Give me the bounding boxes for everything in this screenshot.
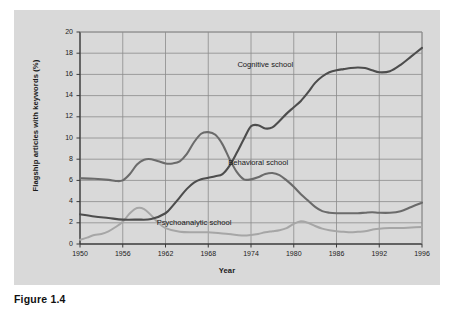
x-tick-label: 1996: [405, 250, 439, 257]
x-tick-label: 1974: [234, 250, 268, 257]
figure-container: Flagship articles with keywords (%) Year…: [0, 0, 451, 316]
y-tick-label: 14: [55, 91, 73, 98]
y-tick-label: 20: [55, 28, 73, 35]
x-tick-label: 1992: [362, 250, 396, 257]
series-label-psychoanalytic-school: Psychoanalytic school: [157, 218, 232, 227]
series-label-behavioral-school: Behavioral school: [228, 158, 288, 167]
x-tick-label: 1986: [320, 250, 354, 257]
series-label-cognitive-school: Cognitive school: [237, 60, 293, 69]
x-tick-label: 1980: [277, 250, 311, 257]
y-tick-label: 4: [55, 197, 73, 204]
y-tick-label: 0: [55, 240, 73, 247]
y-tick-label: 6: [55, 176, 73, 183]
x-axis-title: Year: [14, 266, 440, 275]
y-tick-label: 10: [55, 134, 73, 141]
chart-plot-area: Flagship articles with keywords (%) Year…: [14, 10, 440, 285]
y-tick-label: 2: [55, 218, 73, 225]
x-tick-label: 1968: [191, 250, 225, 257]
x-tick-label: 1962: [149, 250, 183, 257]
y-tick-label: 16: [55, 70, 73, 77]
x-tick-label: 1956: [106, 250, 140, 257]
x-tick-label: 1950: [63, 250, 97, 257]
y-tick-label: 18: [55, 49, 73, 56]
y-tick-label: 8: [55, 155, 73, 162]
y-axis-title: Flagship articles with keywords (%): [31, 62, 40, 192]
figure-caption: Figure 1.4: [14, 293, 66, 305]
line-chart: [14, 10, 440, 285]
y-tick-label: 12: [55, 112, 73, 119]
